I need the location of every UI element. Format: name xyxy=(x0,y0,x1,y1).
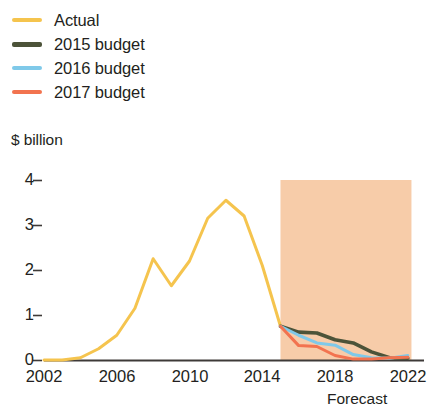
y-tick-1: 1 xyxy=(12,305,34,324)
x-tick-2014: 2014 xyxy=(232,367,292,386)
y-tick-3: 3 xyxy=(12,215,34,234)
forecast-annotation-label: Forecast xyxy=(327,390,387,408)
y-tick-4: 4 xyxy=(12,170,34,189)
y-tick-2: 2 xyxy=(12,260,34,279)
x-tick-2002: 2002 xyxy=(14,367,74,386)
x-tick-2006: 2006 xyxy=(87,367,147,386)
x-tick-2010: 2010 xyxy=(160,367,220,386)
x-tick-2018: 2018 xyxy=(305,367,365,386)
series-line-actual xyxy=(44,200,280,360)
x-tick-2022: 2022 xyxy=(378,367,431,386)
